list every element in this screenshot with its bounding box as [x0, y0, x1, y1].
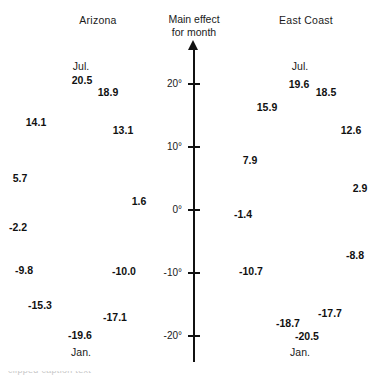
data-value-label: -20.5 — [295, 330, 319, 342]
season-label: Jan. — [71, 346, 91, 358]
data-value-label: -18.7 — [276, 317, 300, 329]
axis-tick-label: -20° — [136, 330, 182, 341]
data-value-label: 15.9 — [257, 101, 277, 113]
data-value-label: -9.8 — [15, 264, 33, 276]
data-value-label: -17.1 — [103, 311, 127, 323]
data-value-label: -1.4 — [234, 208, 252, 220]
axis-tick-mark — [188, 335, 200, 336]
season-label: Jan. — [290, 346, 310, 358]
axis-title-line-1: Main effect — [168, 13, 219, 25]
data-value-label: 1.6 — [132, 195, 147, 207]
axis-line — [193, 47, 195, 362]
axis-tick-mark — [188, 146, 200, 147]
data-value-label: 18.5 — [316, 86, 336, 98]
clipped-caption-remnant: clipped caption text — [8, 371, 371, 378]
season-label: Jul. — [73, 60, 89, 72]
data-value-label: 2.9 — [353, 182, 368, 194]
clipped-caption-text: clipped caption text — [8, 371, 371, 375]
data-value-label: -2.2 — [9, 221, 27, 233]
axis-tick-label: 20° — [136, 78, 182, 89]
data-value-label: -10.7 — [239, 265, 263, 277]
figure-main-effect-for-month: Arizona East Coast Main effect for month… — [0, 0, 379, 378]
axis-tick-label: -10° — [136, 267, 182, 278]
axis-tick-mark — [188, 209, 200, 210]
data-value-label: 19.6 — [289, 78, 309, 90]
data-value-label: 7.9 — [243, 154, 258, 166]
season-label: Jul. — [292, 60, 308, 72]
data-value-label: 12.6 — [341, 124, 361, 136]
axis-arrow-up-icon — [188, 40, 198, 50]
axis-title: Main effect for month — [152, 13, 236, 38]
panel-title-arizona: Arizona — [48, 14, 148, 26]
data-value-label: 14.1 — [26, 116, 46, 128]
data-value-label: 18.9 — [98, 86, 118, 98]
data-value-label: -10.0 — [112, 265, 136, 277]
data-value-label: -17.7 — [318, 307, 342, 319]
data-value-label: -15.3 — [28, 299, 52, 311]
data-value-label: -8.8 — [346, 249, 364, 261]
axis-tick-mark — [188, 83, 200, 84]
vertical-axis: 20°10°0°-10°-20° — [0, 0, 379, 378]
panel-title-east-coast: East Coast — [256, 14, 356, 26]
data-value-label: 5.7 — [13, 172, 28, 184]
axis-title-line-2: for month — [152, 26, 236, 39]
data-value-label: 20.5 — [72, 74, 92, 86]
axis-tick-label: 10° — [136, 141, 182, 152]
data-value-label: 13.1 — [113, 124, 133, 136]
data-value-label: -19.6 — [68, 329, 92, 341]
axis-tick-mark — [188, 272, 200, 273]
